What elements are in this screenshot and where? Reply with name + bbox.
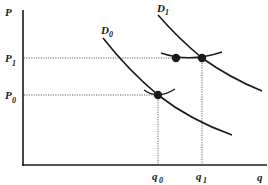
curve-label-d1: D 1 [156, 2, 169, 17]
demand-curve-d1 [158, 15, 262, 91]
svg-text:P: P [5, 52, 12, 64]
intermediate-point-p1 [172, 54, 180, 62]
svg-text:D: D [156, 2, 165, 14]
svg-text:1: 1 [203, 176, 207, 185]
curve-label-d0: D 0 [100, 24, 113, 39]
arc-at-p1 [161, 52, 222, 58]
equilibrium-point-p0-q0 [154, 91, 162, 99]
svg-text:1: 1 [165, 8, 169, 17]
svg-text:q: q [152, 170, 158, 182]
svg-text:1: 1 [12, 59, 16, 68]
svg-text:0: 0 [12, 96, 16, 105]
quantity-label-q0: q 0 [152, 170, 163, 185]
price-label-p0: P 0 [5, 89, 16, 105]
svg-text:D: D [100, 24, 109, 36]
svg-text:0: 0 [109, 30, 113, 39]
price-label-p1: P 1 [5, 52, 16, 68]
demand-curve-d0 [103, 38, 232, 135]
svg-text:P: P [5, 89, 12, 101]
demand-shift-diagram: P q P 1 P 0 q 0 q 1 D 0 D 1 [0, 0, 268, 185]
quantity-label-q1: q 1 [196, 170, 207, 185]
svg-text:0: 0 [159, 176, 163, 185]
svg-text:q: q [196, 170, 202, 182]
x-axis-label: q [257, 171, 263, 183]
equilibrium-point-p1-q1 [198, 54, 206, 62]
y-axis-label: P [5, 6, 12, 18]
